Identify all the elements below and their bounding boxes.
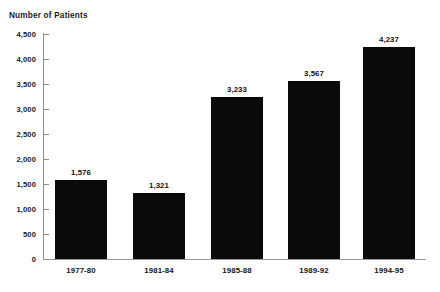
bar-value-label: 1,321 [133,181,185,190]
y-axis-tick [44,34,49,35]
y-axis-line [43,33,44,260]
bar-value-label: 3,567 [288,69,340,78]
y-axis-tick [44,259,49,260]
y-axis-tick [44,134,49,135]
y-axis-tick-label: 3,500 [0,80,36,89]
bar [211,97,263,259]
x-axis-line [43,259,426,260]
x-axis-category-label: 1994-95 [357,266,421,275]
y-axis-tick-label: 500 [0,230,36,239]
y-axis-tick [44,84,49,85]
y-axis-tick-label: 4,500 [0,30,36,39]
y-axis-tick [44,59,49,60]
plot-area: 05001,0001,5002,0002,5003,0003,5004,0004… [0,0,440,292]
bar-value-label: 4,237 [363,35,415,44]
y-axis-tick [44,109,49,110]
y-axis-tick [44,159,49,160]
x-axis-category-label: 1985-88 [205,266,269,275]
bar [55,180,107,259]
x-axis-category-label: 1977-80 [49,266,113,275]
y-axis-tick-label: 0 [0,255,36,264]
y-axis-tick [44,234,49,235]
bar-chart: Number of Patients 05001,0001,5002,0002,… [0,0,440,292]
bar [133,193,185,259]
y-axis-tick-label: 4,000 [0,55,36,64]
y-axis-tick-label: 2,500 [0,130,36,139]
y-axis-tick-label: 2,000 [0,155,36,164]
y-axis-tick-label: 1,500 [0,180,36,189]
bar-value-label: 3,233 [211,85,263,94]
y-axis-tick-label: 1,000 [0,205,36,214]
x-axis-category-label: 1989-92 [282,266,346,275]
bar [363,47,415,259]
bar [288,81,340,259]
y-axis-tick [44,209,49,210]
bar-value-label: 1,576 [55,168,107,177]
y-axis-tick [44,184,49,185]
y-axis-tick-label: 3,000 [0,105,36,114]
x-axis-category-label: 1981-84 [127,266,191,275]
